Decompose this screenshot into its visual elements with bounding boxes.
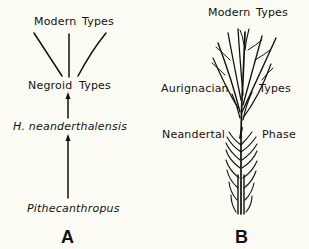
diagram-b-phase-label: Phase	[262, 129, 296, 141]
arrowhead-up-icon	[66, 134, 71, 141]
diagram-a-lines	[0, 0, 309, 249]
arrowhead-up-icon	[66, 92, 71, 99]
diagram-b-aurignacian-label: Aurignacian	[161, 83, 229, 95]
diagram-a-branch-left	[34, 33, 62, 76]
diagram-b-panel-letter: B	[235, 228, 248, 246]
diagram-b-modern-label: Modern	[208, 7, 250, 19]
diagram-b-types-label: Types	[256, 7, 288, 19]
diagram-b-tree	[212, 29, 276, 214]
diagram-b-aurignacian-types-label: Types	[259, 83, 291, 95]
diagram-b-neandertal-label: Neandertal	[162, 129, 225, 141]
diagram-a-branch-right	[78, 33, 106, 76]
